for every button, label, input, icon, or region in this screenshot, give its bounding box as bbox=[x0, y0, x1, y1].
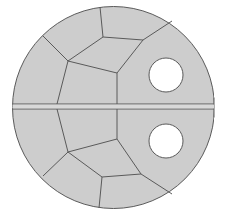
split-gap bbox=[13, 105, 214, 109]
upper-hole bbox=[149, 58, 183, 92]
mesh-figure bbox=[0, 0, 227, 218]
disk-body bbox=[13, 7, 215, 209]
lower-hole bbox=[149, 124, 183, 158]
mesh-diagram bbox=[0, 0, 227, 218]
